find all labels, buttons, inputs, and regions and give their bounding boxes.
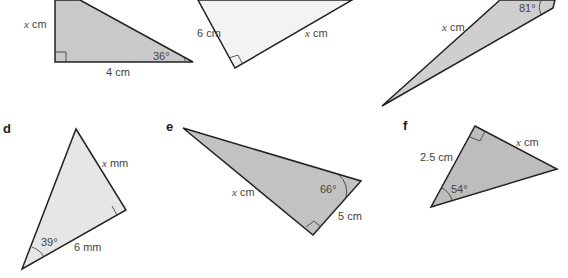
a-base-label: 4 cm bbox=[106, 66, 130, 78]
triangle-e: x cm 5 cm 66° bbox=[183, 128, 362, 235]
d-base-label: 6 mm bbox=[74, 241, 102, 253]
part-label-d: d bbox=[3, 121, 11, 136]
e-angle-label: 66° bbox=[320, 183, 337, 195]
e-side-x-label: x cm bbox=[231, 186, 255, 198]
a-side-x-label: x cm bbox=[23, 18, 47, 30]
d-side-x-label: x mm bbox=[101, 157, 128, 169]
a-angle-label: 36° bbox=[153, 50, 170, 62]
b-side-left-label: 6 cm bbox=[197, 27, 221, 39]
d-angle-label: 39° bbox=[41, 236, 58, 248]
triangle-diagram: x cm 4 cm 36° 6 cm x cm x cm 81° d x mm … bbox=[0, 0, 568, 278]
f-angle-label: 54° bbox=[451, 183, 468, 195]
f-side-left-label: 2.5 cm bbox=[420, 151, 453, 163]
triangle-d: x mm 6 mm 39° bbox=[22, 129, 128, 269]
b-side-x-label: x cm bbox=[304, 27, 328, 39]
c-angle-label: 81° bbox=[519, 2, 536, 14]
triangle-b: 6 cm x cm bbox=[197, 0, 352, 68]
part-label-f: f bbox=[403, 118, 408, 133]
triangle-f: 2.5 cm x cm 54° bbox=[420, 126, 557, 207]
f-side-x-label: x cm bbox=[515, 136, 539, 148]
e-side-5cm-label: 5 cm bbox=[338, 210, 362, 222]
c-side-x-label: x cm bbox=[441, 21, 465, 33]
triangle-c: x cm 81° bbox=[382, 0, 555, 106]
triangle-a: x cm 4 cm 36° bbox=[23, 0, 193, 78]
part-label-e: e bbox=[166, 119, 173, 134]
